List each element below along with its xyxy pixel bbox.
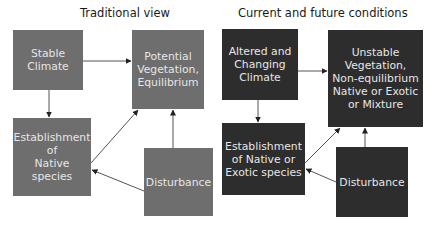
node-disturbance-right: Disturbance: [336, 147, 408, 217]
node-label: Potential Vegetation, Equilibrium: [137, 50, 199, 89]
node-stable-climate: Stable Climate: [13, 30, 83, 90]
node-establishment-native-exotic: Establishment of Native or Exotic specie…: [222, 123, 305, 195]
arrow-establishment-to-vegetation-left: [91, 110, 138, 163]
node-label: Disturbance: [146, 176, 211, 189]
node-establishment-native: Establishment of Native species: [13, 118, 91, 196]
node-label: Establishment of Native species: [13, 131, 91, 183]
node-label: Disturbance: [339, 176, 404, 189]
arrow-establishment-to-vegetation-right: [305, 128, 340, 163]
node-label: Stable Climate: [27, 47, 69, 73]
node-label: Establishment of Native or Exotic specie…: [225, 140, 302, 179]
node-label: Unstable Vegetation, Non-equilibrium Nat…: [332, 46, 418, 111]
node-label: Altered and Changing Climate: [229, 45, 292, 84]
node-unstable-vegetation: Unstable Vegetation, Non-equilibrium Nat…: [328, 30, 423, 127]
node-potential-vegetation: Potential Vegetation, Equilibrium: [132, 30, 204, 109]
arrow-disturbance-to-establishment-left: [92, 170, 144, 191]
node-disturbance-left: Disturbance: [144, 148, 213, 216]
arrow-disturbance-to-establishment-right: [306, 169, 336, 182]
node-altered-climate: Altered and Changing Climate: [222, 29, 298, 100]
